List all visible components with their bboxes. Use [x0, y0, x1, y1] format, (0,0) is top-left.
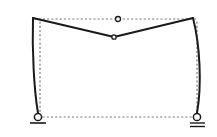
deformed-right-column: [193, 18, 200, 113]
deformed-left-column: [33, 18, 38, 113]
original-frame: [35, 19, 197, 117]
right-roller-support-icon: [190, 113, 205, 126]
deformed-crown-hinge-icon: [112, 35, 116, 39]
left-pin-support-icon: [30, 113, 46, 123]
frame-diagram: Three-hinged portal frame: original geom…: [0, 0, 217, 137]
deformed-frame: [33, 18, 200, 113]
deformed-left-beam: [33, 18, 112, 37]
deformed-right-beam: [116, 18, 193, 37]
original-crown-hinge-icon: [116, 17, 121, 22]
diagram-svg: [0, 0, 217, 137]
